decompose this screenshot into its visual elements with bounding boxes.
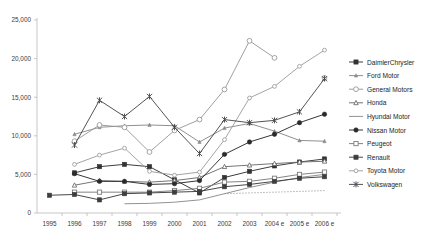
marker-square-filled [222,175,226,179]
y-tick-label: 5,000 [15,171,31,178]
marker-circle-open-small [123,146,127,150]
marker-square-filled [122,162,126,166]
legend-item-label: Renault [367,154,390,161]
legend-item-ford-motor[interactable]: Ford Motor [349,72,400,79]
chart-canvas: 05,00010,00015,00020,00025,0001995199619… [0,0,448,244]
marker-circle-open-small [98,153,102,157]
legend-item-label: Toyota Motor [367,167,406,175]
marker-circle-filled [354,128,358,132]
marker-circle-filled [72,171,76,175]
y-tick-label: 20,000 [11,55,31,62]
marker-square-open [222,180,226,184]
marker-triangle-open [247,163,251,167]
marker-circle-open-small [73,162,77,166]
legend-item-volkswagen[interactable]: Volkswagen [349,181,403,189]
marker-circle-filled [322,112,326,116]
legend-item-label: Volkswagen [367,181,403,189]
marker-square-filled [147,165,151,169]
x-tick-label: 2002 [217,220,232,227]
marker-circle-open [354,87,359,92]
marker-star-x [147,93,152,99]
marker-square-filled [122,192,126,196]
marker-circle-filled [197,178,201,182]
series-dotted-line [225,191,325,194]
legend-item-nissan-motor[interactable]: Nissan Motor [349,127,407,134]
series-volkswagen [72,76,327,157]
marker-square-open [322,170,326,174]
marker-circle-open-small [223,138,227,142]
marker-square-open [354,142,358,146]
marker-circle-filled [222,152,226,156]
marker-circle-open [97,123,102,128]
marker-square-filled [97,198,101,202]
x-tick-label: 2001 [192,220,207,227]
y-tick-label: 10,000 [11,132,31,139]
marker-star-x [297,109,302,115]
y-tick-label: 0 [27,209,31,216]
marker-square-filled [47,193,51,197]
x-tick-label: 2003 [242,220,257,227]
marker-triangle-open [72,183,76,187]
y-tick-label: 15,000 [11,94,31,101]
series-toyota-motor [73,48,327,177]
marker-square-filled [222,185,226,189]
marker-circle-open-small [148,169,152,173]
legend-item-toyota-motor[interactable]: Toyota Motor [349,167,406,175]
legend-item-hyundai-motor[interactable]: Hyundai Motor [349,113,411,121]
marker-circle-open-small [173,173,177,177]
marker-triangle-open [354,100,358,104]
marker-star-x [72,142,77,148]
x-tick-label: 2006 e [315,220,335,227]
marker-square-filled [72,192,76,196]
marker-triangle-open [272,161,276,165]
marker-square-filled [322,175,326,179]
marker-star-x [97,97,102,103]
marker-square-filled [97,165,101,169]
marker-circle-open-small [323,48,327,52]
legend-item-label: Nissan Motor [367,127,407,134]
marker-square-filled [247,182,251,186]
marker-circle-filled [147,182,151,186]
marker-circle-open [122,125,127,130]
marker-circle-filled [247,140,251,144]
line-chart: 05,00010,00015,00020,00025,0001995199619… [0,0,448,244]
marker-circle-filled [297,120,301,124]
marker-square-filled [297,176,301,180]
series-ford-motor [73,122,326,144]
x-tick-label: 2000 [167,220,182,227]
marker-square-filled [354,60,358,64]
marker-circle-open-small [298,64,302,68]
marker-square-filled [172,190,176,194]
marker-square-filled [197,189,201,193]
legend-item-label: Peugeot [367,140,392,148]
x-tick-label: 1996 [67,220,82,227]
legend-item-label: DaimlerChrysler [367,59,415,67]
series-line [50,177,325,200]
legend-item-label: Honda [367,99,387,106]
marker-circle-open [222,87,227,92]
marker-circle-filled [272,132,276,136]
x-tick-label: 1998 [117,220,132,227]
marker-square-filled [272,179,276,183]
marker-square-filled [354,155,358,159]
legend-item-label: Hyundai Motor [367,113,411,121]
series-general-motors [72,38,327,154]
legend-item-label: Ford Motor [367,72,400,79]
marker-circle-open-small [198,170,202,174]
legend-item-renault[interactable]: Renault [349,154,390,161]
marker-square-filled [247,169,251,173]
marker-circle-filled [97,179,101,183]
x-tick-label: 1999 [142,220,157,227]
y-tick-label: 25,000 [11,16,31,23]
legend-item-peugeot[interactable]: Peugeot [349,140,392,148]
marker-circle-open [247,38,252,43]
marker-triangle-open [222,164,226,168]
legend-item-daimlerchrysler[interactable]: DaimlerChrysler [349,59,415,67]
marker-square-open [97,190,101,194]
x-tick-label: 1997 [92,220,107,227]
marker-square-filled [147,191,151,195]
legend-item-general-motors[interactable]: General Motors [349,86,413,93]
legend-item-honda[interactable]: Honda [349,99,387,106]
marker-star-x [197,151,202,157]
marker-circle-open-small [248,96,252,100]
